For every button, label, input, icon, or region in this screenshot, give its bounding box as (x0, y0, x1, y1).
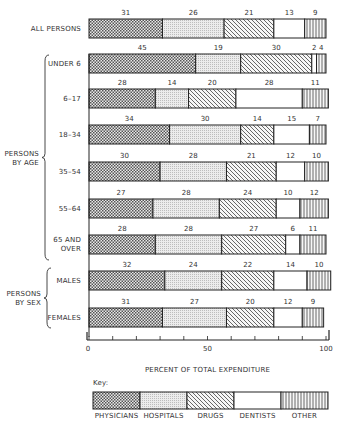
bar-segment-hospitals (153, 199, 219, 218)
bar-row-65-and-over: 65 ANDOVER282827611 (53, 225, 326, 254)
data-label: 28 (184, 225, 193, 233)
row-label: UNDER 6 (48, 60, 81, 68)
bar-segment-drugs (241, 54, 312, 73)
data-label: 32 (122, 261, 131, 269)
x-tick-label: 0 (86, 345, 90, 353)
bar-segment-dentists (274, 308, 302, 327)
bar-row-6-17: 6–172814202811 (63, 79, 328, 108)
data-label: 27 (117, 189, 126, 197)
bar-segment-hospitals (196, 54, 241, 73)
data-label: 12 (286, 152, 295, 160)
bar-segment-other (317, 54, 326, 73)
legend-item-other: OTHER (281, 392, 328, 420)
data-label: 21 (247, 152, 256, 160)
data-label: 28 (189, 152, 198, 160)
data-label: 13 (285, 9, 294, 17)
bars-layer: ALL PERSONS312621139UNDER 6451930246–172… (31, 9, 331, 327)
stacked-bar-chart: ALL PERSONS312621139UNDER 6451930246–172… (0, 0, 340, 421)
data-label: 10 (314, 261, 323, 269)
bar-row-males: MALES3224221410 (56, 261, 330, 290)
data-label: 30 (120, 152, 129, 160)
row-label: 35–54 (59, 168, 82, 176)
data-label: 27 (249, 225, 258, 233)
row-label: 65 AND (53, 236, 81, 244)
legend-item-hospitals: HOSPITALS (140, 392, 187, 420)
bar-row-18-34: 18–34343014157 (59, 115, 326, 144)
legend-item-physicians: PHYSICIANS (93, 392, 140, 420)
bar-segment-physicians (89, 271, 165, 290)
legend-label: OTHER (292, 412, 317, 420)
data-label: 9 (311, 298, 315, 306)
data-label: 14 (167, 79, 176, 87)
data-label: 12 (284, 298, 293, 306)
data-label: 4 (319, 44, 324, 52)
bar-segment-drugs (241, 125, 274, 144)
bar-segment-drugs (226, 308, 273, 327)
data-label: 27 (190, 298, 199, 306)
legend-swatch (140, 392, 187, 409)
bar-row-under-6: UNDER 645193024 (48, 44, 326, 73)
data-label: 30 (201, 115, 210, 123)
group-label: PERSONS (6, 290, 41, 298)
data-label: 11 (309, 225, 318, 233)
legend-swatch (187, 392, 234, 409)
row-label: 18–34 (59, 131, 82, 139)
bar-segment-hospitals (162, 308, 226, 327)
bar-segment-other (300, 199, 328, 218)
bar-segment-drugs (219, 199, 276, 218)
bar-segment-hospitals (160, 162, 226, 181)
bar-segment-hospitals (155, 89, 188, 108)
data-label: 10 (312, 152, 321, 160)
legend-swatch (93, 392, 140, 409)
legend-label: PHYSICIANS (95, 412, 139, 420)
data-label: 6 (291, 225, 296, 233)
data-label: 20 (208, 79, 217, 87)
legend-label: HOSPITALS (143, 412, 184, 420)
data-label: 14 (253, 115, 262, 123)
data-label: 21 (245, 9, 254, 17)
row-label: FEMALES (48, 314, 82, 322)
bar-segment-drugs (222, 235, 286, 254)
bar-segment-physicians (89, 162, 160, 181)
bar-segment-drugs (222, 271, 274, 290)
data-label: 7 (315, 115, 319, 123)
data-label: 24 (243, 189, 252, 197)
data-label: 11 (311, 79, 320, 87)
bar-row-35-54: 35–543028211210 (59, 152, 329, 181)
bar-segment-hospitals (162, 19, 224, 38)
bar-segment-other (305, 19, 326, 38)
bar-segment-other (309, 125, 326, 144)
data-label: 22 (243, 261, 252, 269)
bar-segment-physicians (89, 54, 196, 73)
data-label: 30 (272, 44, 281, 52)
bar-segment-other (302, 308, 323, 327)
bar-segment-hospitals (155, 235, 221, 254)
group-brackets: PERSONSBY AGEPERSONSBY SEX (4, 55, 51, 328)
row-label: ALL PERSONS (31, 25, 82, 33)
data-label: 20 (246, 298, 255, 306)
data-label: 34 (125, 115, 134, 123)
bar-segment-drugs (189, 89, 236, 108)
data-label: 28 (118, 79, 127, 87)
data-label: 28 (265, 79, 274, 87)
bar-segment-other (302, 89, 328, 108)
legend-swatch (234, 392, 281, 409)
group-label: BY AGE (12, 159, 39, 167)
bar-segment-other (300, 235, 326, 254)
legend-item-dentists: DENTISTS (234, 392, 281, 420)
data-label: 28 (118, 225, 127, 233)
bar-segment-physicians (89, 125, 170, 144)
data-label: 24 (189, 261, 198, 269)
data-label: 31 (121, 9, 130, 17)
data-label: 10 (284, 189, 293, 197)
bar-segment-physicians (89, 235, 155, 254)
bar-segment-hospitals (170, 125, 241, 144)
data-label: 2 (312, 44, 316, 52)
row-label: 55–64 (59, 205, 82, 213)
data-label: 45 (138, 44, 147, 52)
bar-segment-other (307, 271, 331, 290)
bar-segment-dentists (236, 89, 302, 108)
row-label: OVER (61, 245, 81, 253)
data-label: 14 (286, 261, 295, 269)
bar-segment-physicians (89, 89, 155, 108)
